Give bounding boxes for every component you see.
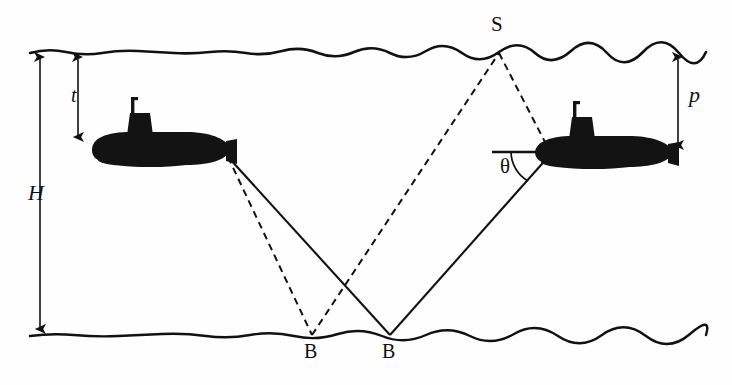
ray-S-to-target-sub [499, 53, 546, 144]
label-B2: B [382, 341, 395, 361]
submarine-geometry-svg [0, 0, 732, 385]
label-H: H [28, 182, 44, 204]
label-p: p [689, 84, 700, 106]
label-t: t [71, 85, 77, 105]
sea-bottom [30, 325, 707, 344]
target-submarine [535, 101, 679, 169]
ray-B1-to-S [312, 53, 499, 335]
label-B1: B [304, 341, 317, 361]
own-submarine [92, 97, 237, 167]
ray-own-sub-to-B1 [228, 157, 312, 335]
diagram-canvas: H t p S B B θ [0, 0, 732, 385]
sea-surface [30, 42, 706, 63]
label-S: S [491, 14, 503, 35]
ray-own-sub-to-B2 [229, 158, 390, 335]
label-theta: θ [500, 156, 510, 177]
